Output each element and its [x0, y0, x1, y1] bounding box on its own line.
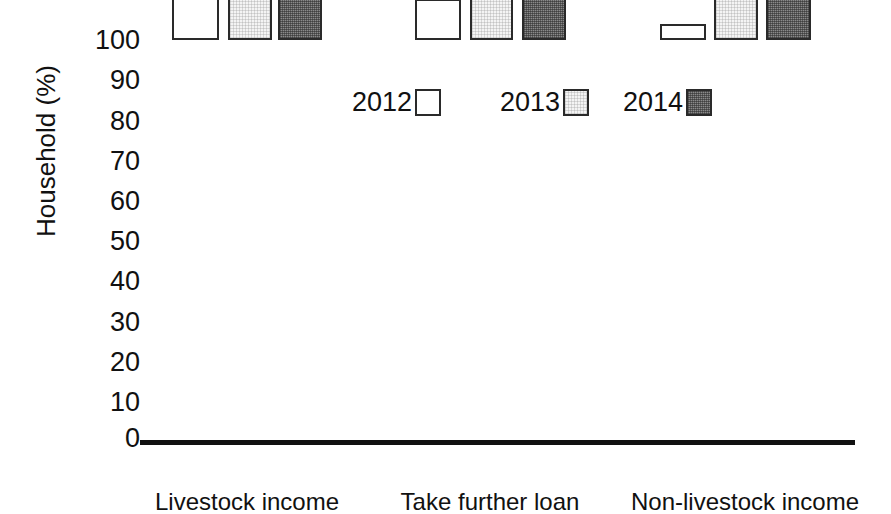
y-tick-20: 20	[40, 349, 146, 376]
y-axis-tick-labels: 100 90 80 70 60 50 40 30 20 10 0	[40, 0, 146, 470]
category-label-non-livestock-income: Non-livestock income	[625, 488, 865, 514]
legend-label-2014: 2014	[623, 87, 683, 117]
y-tick-0: 0	[40, 425, 146, 452]
legend-label-2012: 2012	[352, 87, 412, 117]
category-label-take-further-loan: Take further loan	[380, 488, 600, 514]
chart-legend: 2012 2013 2014	[352, 84, 752, 124]
y-tick-40: 40	[40, 268, 146, 295]
bar-take-further-loan-2012	[415, 0, 461, 40]
y-tick-100: 100	[40, 27, 146, 54]
y-tick-70: 70	[40, 148, 146, 175]
bar-non-livestock-income-2013	[714, 0, 758, 40]
bar-livestock-income-2012	[172, 0, 219, 40]
category-label-livestock-income: Livestock income	[137, 488, 357, 514]
y-tick-60: 60	[40, 188, 146, 215]
white-square-swatch-icon	[415, 89, 441, 116]
bar-livestock-income-2013	[228, 0, 272, 40]
dark-gray-square-swatch-icon	[686, 89, 712, 116]
bar-take-further-loan-2013	[470, 0, 513, 40]
y-tick-10: 10	[40, 389, 146, 416]
y-tick-50: 50	[40, 228, 146, 255]
legend-entry-2014: 2014	[623, 84, 712, 120]
x-axis-baseline	[140, 440, 855, 445]
legend-entry-2012: 2012	[352, 84, 441, 120]
y-tick-90: 90	[40, 67, 146, 94]
bar-livestock-income-2014	[278, 0, 322, 40]
y-tick-80: 80	[40, 108, 146, 135]
bar-non-livestock-income-2014	[766, 0, 811, 40]
bar-take-further-loan-2014	[522, 0, 566, 40]
y-tick-30: 30	[40, 309, 146, 336]
legend-label-2013: 2013	[500, 87, 560, 117]
bar-non-livestock-income-2012	[660, 24, 706, 40]
light-gray-square-swatch-icon	[563, 89, 589, 116]
legend-entry-2013: 2013	[500, 84, 589, 120]
